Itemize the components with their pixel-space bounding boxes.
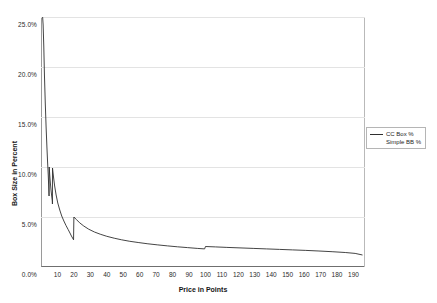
- x-axis-tick-label: 180: [332, 271, 343, 278]
- y-axis-tick-label: 5.0%: [22, 221, 37, 228]
- x-axis-tick-label: 60: [136, 271, 143, 278]
- x-axis-tick-label: 150: [282, 271, 293, 278]
- y-tick-row: 20.0%: [0, 63, 37, 81]
- gridline-y: [41, 217, 365, 218]
- x-axis-tick-label: 30: [87, 271, 94, 278]
- x-axis-tick-label: 170: [315, 271, 326, 278]
- y-axis-tick-label: 0.0%: [22, 271, 37, 278]
- x-axis-tick-label: 110: [217, 271, 227, 278]
- x-axis-tick-label: 160: [299, 271, 310, 278]
- gridline-y: [41, 167, 365, 168]
- chart-container: 0.0%5.0%10.0%15.0%20.0%25.0% 10203040506…: [0, 0, 437, 303]
- y-tick-row: 10.0%: [0, 163, 37, 181]
- x-axis-tick-label: 20: [70, 271, 77, 278]
- y-tick-row: 5.0%: [0, 213, 37, 231]
- x-axis-tick-label: 80: [169, 271, 176, 278]
- x-axis-tick-label: 40: [103, 271, 110, 278]
- x-axis-title: Price in Points: [41, 286, 365, 293]
- y-tick-row: 25.0%: [0, 13, 37, 31]
- legend-item: Simple BB %: [370, 139, 421, 145]
- y-tick-row: 0.0%: [0, 263, 37, 281]
- y-axis-tick-label: 15.0%: [18, 121, 37, 128]
- chart-legend: CC Box %Simple BB %: [366, 127, 426, 149]
- plot-right-border: [364, 17, 365, 267]
- x-axis-tick-label: 10: [54, 271, 61, 278]
- x-axis-tick-label: 130: [249, 271, 260, 278]
- legend-label: Simple BB %: [386, 139, 421, 145]
- legend-line-swatch: [370, 134, 383, 135]
- x-axis-tick-label: 100: [200, 271, 211, 278]
- legend-item: CC Box %: [370, 131, 421, 137]
- y-axis-tick-label: 25.0%: [18, 21, 37, 28]
- legend-label: CC Box %: [386, 131, 414, 137]
- x-axis-tick-label: 120: [233, 271, 244, 278]
- x-axis-tick-label: 50: [120, 271, 127, 278]
- x-axis-tick-label: 140: [266, 271, 277, 278]
- y-axis-title: Box Size in Percent: [11, 114, 18, 234]
- y-axis-tick-label: 20.0%: [18, 71, 37, 78]
- y-axis-tick-label: 10.0%: [18, 171, 37, 178]
- gridline-y: [41, 17, 365, 18]
- x-axis-tick-label: 70: [153, 271, 160, 278]
- gridline-y: [41, 117, 365, 118]
- legend-line-swatch: [370, 142, 383, 143]
- y-tick-row: 15.0%: [0, 113, 37, 131]
- gridline-y: [41, 67, 365, 68]
- x-axis-tick-label: 90: [185, 271, 192, 278]
- plot-area: [41, 17, 365, 267]
- x-axis-tick-label: 190: [348, 271, 359, 278]
